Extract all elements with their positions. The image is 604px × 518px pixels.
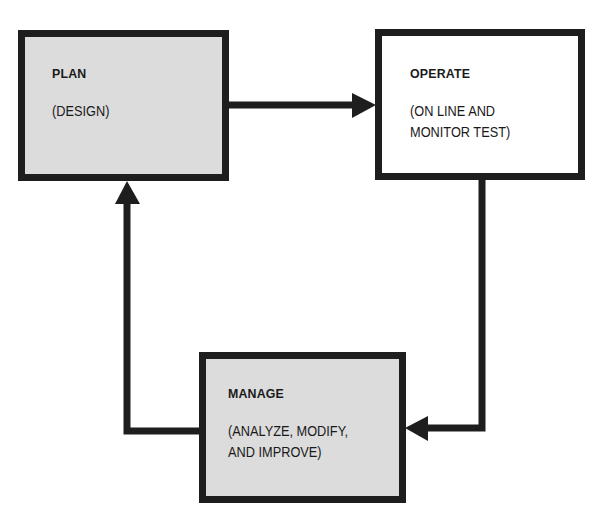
plan-box bbox=[18, 30, 229, 181]
arrow-manage-to-plan bbox=[115, 181, 199, 431]
plan-title: PLAN bbox=[52, 66, 86, 81]
operate-title: OPERATE bbox=[410, 66, 470, 81]
arrowhead-right-icon bbox=[352, 93, 376, 118]
manage-description: (ANALYZE, MODIFY, AND IMPROVE) bbox=[228, 421, 348, 463]
plan-description: (DESIGN) bbox=[52, 101, 109, 122]
operate-description-line: MONITOR TEST) bbox=[410, 122, 510, 143]
arrow-operate-to-manage bbox=[405, 179, 482, 441]
arrowhead-up-icon bbox=[115, 181, 140, 204]
arrow-plan-to-operate bbox=[228, 93, 376, 118]
operate-description-line: (ON LINE AND bbox=[410, 101, 510, 122]
plan-description-line: (DESIGN) bbox=[52, 101, 109, 122]
manage-description-line: AND IMPROVE) bbox=[228, 442, 348, 463]
operate-description: (ON LINE AND MONITOR TEST) bbox=[410, 101, 510, 143]
manage-title: MANAGE bbox=[228, 386, 284, 401]
manage-description-line: (ANALYZE, MODIFY, bbox=[228, 421, 348, 442]
plan-operate-manage-diagram: PLAN (DESIGN) OPERATE (ON LINE AND MONIT… bbox=[0, 0, 604, 518]
arrowhead-left-icon bbox=[405, 416, 428, 441]
